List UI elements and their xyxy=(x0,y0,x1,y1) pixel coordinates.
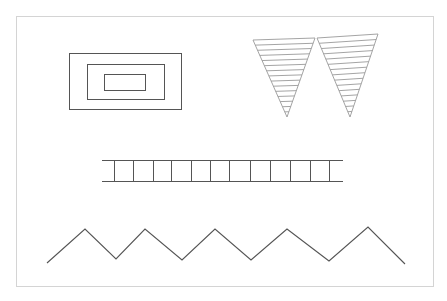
hatched-triangles xyxy=(253,34,378,117)
nested-rectangles xyxy=(70,54,182,110)
triangle-1 xyxy=(253,38,315,117)
rectangle-2 xyxy=(88,65,165,100)
triangle-2 xyxy=(317,34,378,117)
rectangle-3 xyxy=(105,75,146,91)
zigzag-line xyxy=(47,227,405,264)
line-drawing-canvas xyxy=(0,0,447,301)
ladder-shape xyxy=(102,160,343,182)
figure-frame xyxy=(17,17,434,287)
